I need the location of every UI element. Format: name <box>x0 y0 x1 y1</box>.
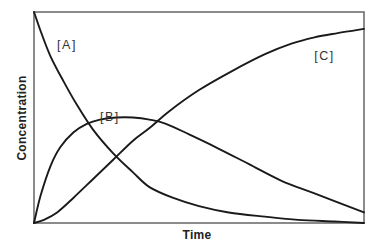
series-label-a: [A] <box>57 38 77 52</box>
concentration-time-chart: [A][B][C] Time Concentration <box>0 0 383 251</box>
y-axis-label: Concentration <box>15 75 29 160</box>
curves-layer <box>34 12 364 223</box>
plot-frame <box>34 12 364 223</box>
series-label-c: [C] <box>314 49 334 63</box>
x-axis-label: Time <box>183 228 212 242</box>
annotations-layer: [A][B][C] <box>57 38 335 124</box>
series-label-b: [B] <box>100 110 120 124</box>
series-line-a <box>34 12 364 223</box>
series-line-b <box>34 117 364 223</box>
